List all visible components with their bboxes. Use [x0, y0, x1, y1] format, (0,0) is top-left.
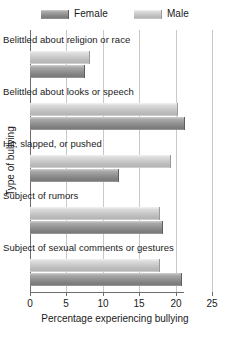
category-label-sexual-comments: Subject of sexual comments or gestures: [3, 242, 174, 253]
x-tick-5: [66, 292, 67, 296]
x-axis-line: [30, 292, 184, 293]
x-tick-label-5: 5: [63, 298, 69, 309]
bar-male-hit-slapped-pushed: [30, 155, 171, 168]
x-tick-label-10: 10: [97, 298, 108, 309]
male-swatch-icon: [134, 10, 162, 19]
x-tick-label-25: 25: [206, 298, 217, 309]
category-label-hit-slapped-pushed: Hit, slapped, or pushed: [3, 138, 102, 149]
bullying-bar-chart: Female Male Belittled about religion or …: [0, 0, 230, 337]
bar-male-religion-or-race: [30, 51, 90, 64]
legend-entry-male: Male: [134, 9, 189, 19]
bar-group-religion-or-race: Belittled about religion or race: [0, 34, 230, 82]
chart-legend: Female Male: [0, 4, 230, 24]
x-tick-15: [139, 292, 140, 296]
legend-label-male: Male: [167, 9, 189, 19]
bar-female-rumors: [30, 221, 163, 234]
bar-group-hit-slapped-pushed: Hit, slapped, or pushed: [0, 138, 230, 186]
y-axis-title: Type of bullying: [5, 76, 17, 246]
x-tick-20: [176, 292, 177, 296]
bar-group-sexual-comments: Subject of sexual comments or gestures: [0, 242, 230, 290]
bar-male-sexual-comments: [30, 259, 160, 272]
bar-male-rumors: [30, 207, 160, 220]
bar-male-looks-or-speech: [30, 103, 178, 116]
bar-female-religion-or-race: [30, 65, 85, 78]
x-tick-label-20: 20: [170, 298, 181, 309]
x-tick-0: [30, 292, 31, 296]
bar-female-looks-or-speech: [30, 117, 185, 130]
legend-label-female: Female: [74, 9, 108, 19]
bar-female-sexual-comments: [30, 273, 182, 286]
x-tick-10: [103, 292, 104, 296]
legend-entry-female: Female: [41, 9, 108, 19]
bar-group-looks-or-speech: Belittled about looks or speech: [0, 86, 230, 134]
x-tick-25: [212, 292, 213, 296]
x-axis-title: Percentage experiencing bullying: [0, 313, 230, 325]
x-tick-label-0: 0: [27, 298, 33, 309]
bar-female-hit-slapped-pushed: [30, 169, 119, 182]
female-swatch-icon: [41, 10, 69, 19]
x-tick-label-15: 15: [133, 298, 144, 309]
bar-group-rumors: Subject of rumors: [0, 190, 230, 238]
category-label-religion-or-race: Belittled about religion or race: [3, 34, 130, 45]
category-label-looks-or-speech: Belittled about looks or speech: [3, 86, 134, 97]
